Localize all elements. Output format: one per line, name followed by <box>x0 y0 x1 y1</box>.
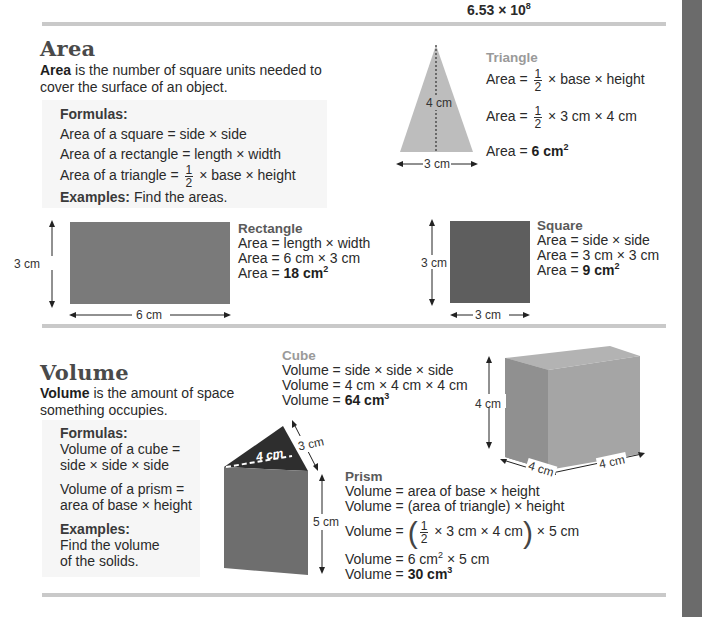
square-height-label: 3 cm <box>421 256 447 270</box>
cube-eq-2: Volume = 4 cm × 4 cm × 4 cm <box>282 378 468 393</box>
fraction-one-half: 12 <box>420 520 429 545</box>
area-intro-term: Area <box>40 62 71 78</box>
result-value: 30 cm <box>408 566 448 582</box>
volume-formulas-title: Formulas: <box>60 425 128 442</box>
header-number-base: 6.53 × 10 <box>467 2 526 18</box>
volume-formula-prism-2: area of base × height <box>60 497 192 514</box>
result-exponent: 2 <box>614 261 619 271</box>
prism-volume-result: 30 cm3 <box>408 566 453 582</box>
rectangle-eq-2: Area = 6 cm × 3 cm <box>238 251 370 266</box>
square-equations: Square Area = side × side Area = 3 cm × … <box>537 218 659 278</box>
volume-intro-term: Volume <box>40 385 90 401</box>
eq-prefix: Area = <box>486 143 532 159</box>
header-number: 6.53 × 108 <box>467 2 531 18</box>
triangle-eq-1: Area = 12 × base × height <box>486 68 645 93</box>
result-value: 64 cm <box>345 392 385 408</box>
prism-equations: Prism Volume = area of base × height Vol… <box>345 469 579 582</box>
top-divider <box>42 22 666 26</box>
close-paren: ) <box>523 516 533 549</box>
prism-eq-3: Volume = (12 × 3 cm × 4 cm) × 5 cm <box>345 520 579 545</box>
fraction-denominator: 2 <box>420 533 429 545</box>
volume-formulas-box: Formulas: Volume of a cube = side × side… <box>42 420 200 577</box>
prism-eq-2: Volume = (area of triangle) × height <box>345 499 579 514</box>
triangle-eq-2: Area = 12 × 3 cm × 4 cm <box>486 105 645 130</box>
area-examples-text: Find the areas. <box>130 189 227 205</box>
eq-suffix: × 3 cm × 4 cm <box>544 108 637 124</box>
rectangle-eq-1: Area = length × width <box>238 236 370 251</box>
triangle-title: Triangle <box>486 50 645 65</box>
area-examples-label: Examples: <box>60 189 130 205</box>
eq-suffix: × base × height <box>544 71 644 87</box>
prism-title: Prism <box>345 469 579 484</box>
square-area-result: 9 cm2 <box>583 262 620 278</box>
cube-eq-1: Volume = side × side × side <box>282 363 468 378</box>
rectangle-width-label: 6 cm <box>136 308 162 322</box>
rectangle-title: Rectangle <box>238 221 370 236</box>
volume-intro-text-1: is the amount of space <box>90 385 235 401</box>
area-formulas-box: Formulas: Area of a square = side × side… <box>42 100 327 208</box>
volume-heading: Volume <box>40 360 129 385</box>
cube-equations: Cube Volume = side × side × side Volume … <box>282 348 468 408</box>
triangle-base-label: 3 cm <box>424 157 450 171</box>
middle-divider <box>42 324 666 328</box>
square-width-label: 3 cm <box>475 308 501 322</box>
eq-prefix: Area = <box>238 265 284 281</box>
triangle-eq-3: Area = 6 cm2 <box>486 144 645 159</box>
cube-title: Cube <box>282 348 468 363</box>
volume-formula-cube-2: side × side × side <box>60 457 169 474</box>
square-eq-3: Area = 9 cm2 <box>537 263 659 278</box>
area-formulas-title: Formulas: <box>60 104 128 124</box>
area-intro-text-2: cover the surface of an object. <box>40 79 228 95</box>
triangle-height-label: 4 cm <box>426 96 452 110</box>
prism-eq-4: Volume = 6 cm2 × 5 cm <box>345 552 579 567</box>
formula-triangle-suffix: × base × height <box>195 167 295 183</box>
result-value: 9 cm <box>583 262 615 278</box>
eq-prefix: Volume = <box>345 523 408 539</box>
rectangle-eq-3: Area = 18 cm2 <box>238 266 370 281</box>
fraction-one-half: 12 <box>534 105 543 130</box>
prism-eq-5: Volume = 30 cm3 <box>345 567 579 582</box>
cube-figure <box>470 342 670 482</box>
area-heading: Area <box>40 36 96 61</box>
square-title: Square <box>537 218 659 233</box>
rectangle-area-result: 18 cm2 <box>284 265 329 281</box>
fraction-one-half: 12 <box>185 164 194 189</box>
triangle-equations: Triangle Area = 12 × base × height Area … <box>486 50 645 159</box>
rectangle-figure <box>20 218 235 323</box>
eq-prefix: Volume = 6 cm <box>345 551 438 567</box>
prism-height-label: 5 cm <box>313 515 339 529</box>
prism-eq-1: Volume = area of base × height <box>345 484 579 499</box>
triangle-area-result: 6 cm2 <box>532 143 569 159</box>
rectangle-height-label: 3 cm <box>14 257 40 271</box>
eq-inner: × 3 cm × 4 cm <box>430 523 523 539</box>
square-eq-2: Area = 3 cm × 3 cm <box>537 248 659 263</box>
fraction-denominator: 2 <box>534 118 543 130</box>
volume-examples-1: Find the volume <box>60 537 160 554</box>
cube-volume-result: 64 cm3 <box>345 392 390 408</box>
volume-formula-cube-1: Volume of a cube = <box>60 441 180 458</box>
result-exponent: 2 <box>563 142 568 152</box>
square-eq-1: Area = side × side <box>537 233 659 248</box>
eq-prefix: Area = <box>486 108 532 124</box>
result-exponent: 3 <box>384 391 389 401</box>
open-paren: ( <box>408 516 418 549</box>
area-formula-triangle: Area of a triangle = 12 × base × height <box>60 164 296 189</box>
eq-prefix: Volume = <box>282 392 345 408</box>
result-value: 6 cm <box>532 143 564 159</box>
volume-examples-label: Examples: <box>60 521 130 538</box>
fraction-one-half: 12 <box>534 68 543 93</box>
area-formula-square: Area of a square = side × side <box>60 124 247 144</box>
result-exponent: 2 <box>323 264 328 274</box>
formula-triangle-prefix: Area of a triangle = <box>60 167 183 183</box>
result-exponent: 3 <box>447 565 452 575</box>
eq-prefix: Area = <box>486 71 532 87</box>
result-value: 18 cm <box>284 265 324 281</box>
volume-intro: Volume is the amount of space something … <box>40 385 250 419</box>
page-edge-bar <box>682 0 702 617</box>
volume-intro-text-2: something occupies. <box>40 402 168 418</box>
area-formula-rectangle: Area of a rectangle = length × width <box>60 144 281 164</box>
eq-prefix: Area = <box>537 262 583 278</box>
area-examples: Examples: Find the areas. <box>60 187 227 207</box>
volume-examples-2: of the solids. <box>60 553 139 570</box>
rectangle-equations: Rectangle Area = length × width Area = 6… <box>238 221 370 281</box>
